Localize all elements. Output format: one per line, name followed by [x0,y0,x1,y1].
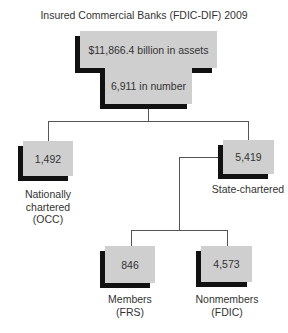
connector-state-down [179,157,180,230]
connector-level1-horizontal [48,121,249,122]
connector-to-nonmembers [227,230,228,246]
root-assets-box: $11,866.4 billion in assets [80,31,217,68]
state-label: State-chartered [208,183,288,196]
members-label-line: Members [90,293,170,306]
members-value: 846 [121,259,139,271]
national-box: 1,492 [23,141,73,176]
national-label-line: chartered [8,201,88,214]
root-number-text: 6,911 in number [111,80,186,92]
members-label: Members (FRS) [90,293,170,318]
connector-root-down [148,109,149,121]
nonmembers-box: 4,573 [201,246,252,282]
nonmembers-label: Nonmembers (FDIC) [186,293,268,318]
national-label: Nationally chartered (OCC) [8,188,88,226]
diagram-title: Insured Commercial Banks (FDIC-DIF) 2009 [0,9,288,21]
connector-to-national [48,121,49,141]
members-label-line: (FRS) [90,306,170,319]
connector-to-state [248,121,249,140]
national-label-line: Nationally [8,188,88,201]
nonmembers-label-line: (FDIC) [186,306,268,319]
connector-state-left [179,157,218,158]
connector-level2-horizontal [131,230,228,231]
root-number-box: 6,911 in number [105,68,192,104]
state-value: 5,419 [235,151,261,163]
nonmembers-label-line: Nonmembers [186,293,268,306]
state-box: 5,419 [223,140,274,174]
connector-to-members [131,230,132,246]
national-label-line: (OCC) [8,213,88,226]
state-label-line: State-chartered [208,183,288,196]
nonmembers-value: 4,573 [213,258,239,270]
root-assets-text: $11,866.4 billion in assets [88,44,208,56]
national-value: 1,492 [35,153,61,165]
members-box: 846 [105,246,155,283]
